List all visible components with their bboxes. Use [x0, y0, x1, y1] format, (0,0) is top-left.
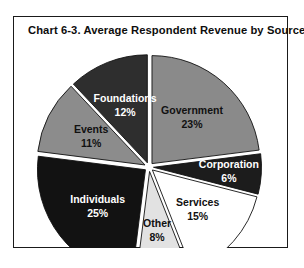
pie-slice-label-services: Services — [176, 196, 219, 208]
pie-chart: Government23%Corporation6%Services15%Oth… — [14, 47, 289, 248]
pie-slice-label-corporation: Corporation — [199, 158, 259, 170]
pie-slice-percent-events: 11% — [81, 137, 102, 149]
pie-slice-label-events: Events — [74, 123, 109, 135]
chart-screenshot: Chart 6-3. Average Respondent Revenue by… — [0, 0, 304, 268]
pie-slice-percent-other: 8% — [150, 231, 166, 243]
pie-slice-percent-government: 23% — [181, 118, 203, 130]
pie-slice-label-foundations: Foundations — [94, 92, 157, 104]
pie-chart-area: Government23%Corporation6%Services15%Oth… — [14, 47, 289, 248]
pie-slice-label-other: Other — [143, 217, 171, 229]
pie-slice-percent-foundations: 12% — [115, 106, 137, 118]
chart-frame: Chart 6-3. Average Respondent Revenue by… — [13, 16, 288, 248]
pie-slice-label-individuals: Individuals — [70, 193, 125, 205]
page-title: Chart 6-3. Average Respondent Revenue by… — [28, 24, 304, 36]
pie-slice-percent-corporation: 6% — [221, 172, 237, 184]
chart-title-band: Chart 6-3. Average Respondent Revenue by… — [14, 17, 287, 47]
pie-slice-percent-individuals: 25% — [87, 207, 109, 219]
pie-slice-percent-services: 15% — [187, 210, 209, 222]
pie-slice-label-government: Government — [161, 104, 223, 116]
